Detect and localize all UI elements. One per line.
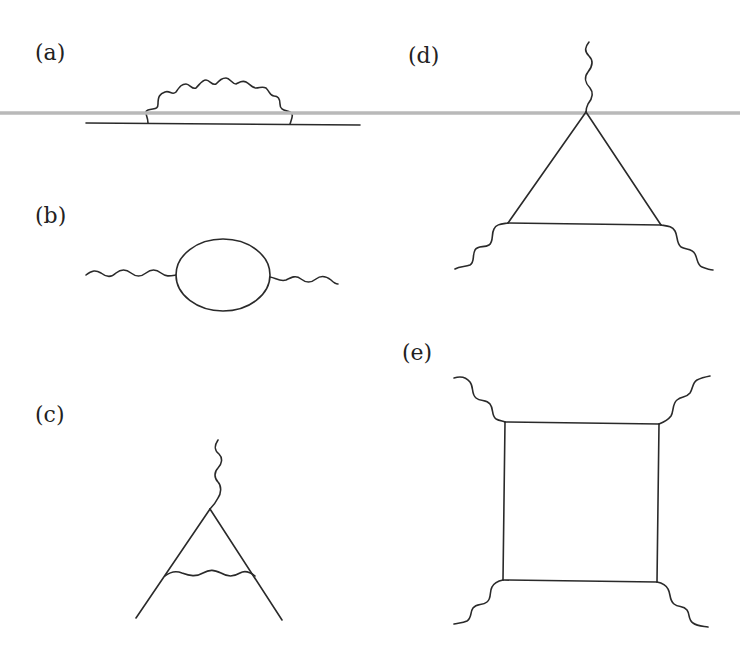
diagram-d	[455, 42, 713, 270]
feynman-diagrams	[0, 0, 740, 645]
diagram-c	[136, 440, 282, 620]
diagram-a	[86, 78, 360, 125]
diagram-b	[86, 239, 338, 311]
diagram-e	[454, 376, 710, 627]
